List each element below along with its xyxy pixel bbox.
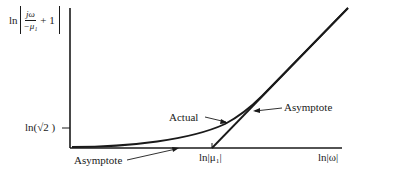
- x-tick-label: ln|μ₁|: [199, 152, 222, 163]
- asymptote-low-annotation: Asymptote: [74, 155, 122, 166]
- abs-bar-right: [59, 6, 60, 34]
- y-axis-label-ln: ln: [9, 15, 18, 26]
- actual-curve: [72, 8, 348, 147]
- asymptote-high-arrowhead: [253, 108, 260, 113]
- fraction-denominator: −μ₁: [24, 21, 38, 32]
- y-tick-label: ln(√2 ): [25, 122, 55, 133]
- abs-bar-left: [20, 6, 21, 34]
- fraction-numerator: jω: [25, 9, 36, 21]
- asymptote-high-annotation: Asymptote: [284, 102, 332, 113]
- actual-annotation: Actual: [169, 112, 198, 123]
- y-axis-label-suffix: + 1: [40, 15, 54, 26]
- asymptote-low-arrow: [127, 149, 176, 160]
- y-axis-label: ln jω −μ₁ + 1: [9, 6, 62, 34]
- x-axis-label: ln|ω|: [318, 152, 338, 163]
- y-axis-label-fraction: jω −μ₁: [24, 9, 38, 32]
